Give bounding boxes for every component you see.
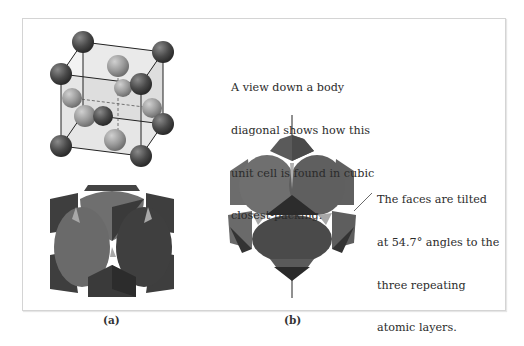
annotation-line: three repeating bbox=[377, 279, 499, 293]
panel-a-label: (a) bbox=[103, 314, 120, 326]
annotation-line: closest-packing. bbox=[231, 209, 374, 223]
fcc-ball-and-stick-diagram bbox=[45, 28, 185, 168]
annotation-line: The faces are tilted bbox=[377, 193, 499, 207]
body-diagonal-annotation: A view down a body diagonal shows how th… bbox=[231, 53, 374, 238]
annotation-line: atomic layers. bbox=[377, 321, 499, 335]
annotation-line: A view down a body bbox=[231, 81, 374, 95]
panel-b-label: (b) bbox=[284, 314, 301, 326]
faces-tilted-annotation: The faces are tilted at 54.7° angles to … bbox=[377, 165, 499, 346]
annotation-line: diagonal shows how this bbox=[231, 124, 374, 138]
annotation-line: unit cell is found in cubic bbox=[231, 167, 374, 181]
annotation-line: at 54.7° angles to the bbox=[377, 236, 499, 250]
fcc-space-filling-diagram bbox=[48, 185, 176, 300]
